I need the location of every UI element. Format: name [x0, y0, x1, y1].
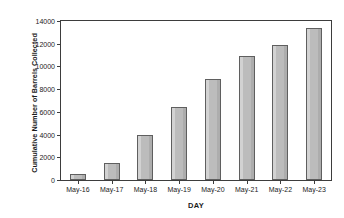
x-axis-tick-label: May-16	[66, 186, 89, 193]
x-axis-tick-mark	[213, 180, 214, 184]
bar-slot	[264, 21, 298, 180]
x-axis-tick-label: May-18	[134, 186, 157, 193]
x-axis-tick-label: May-19	[167, 186, 190, 193]
x-axis-tick-mark	[145, 180, 146, 184]
bar-slot	[297, 21, 331, 180]
bar	[205, 79, 221, 180]
plot-area: 02000400060008000100001200014000 May-16M…	[60, 20, 332, 181]
y-axis-tick-label: 0	[51, 177, 55, 184]
bar-slot	[162, 21, 196, 180]
x-axis-tick-label: May-23	[302, 186, 325, 193]
y-axis-tick-label: 10000	[36, 63, 55, 70]
bar-slot	[196, 21, 230, 180]
y-axis-tick-label: 12000	[36, 40, 55, 47]
bar-slot	[129, 21, 163, 180]
x-axis-tick-label: May-17	[100, 186, 123, 193]
bar-slot	[61, 21, 95, 180]
x-axis-tick-mark	[179, 180, 180, 184]
bar-series	[61, 21, 331, 180]
bar-chart-figure: Cumulative Number of Barrels Collected 0…	[0, 0, 344, 218]
x-axis-tick-mark	[78, 180, 79, 184]
x-axis-tick-mark	[247, 180, 248, 184]
bar	[306, 28, 322, 180]
y-axis-tick-label: 6000	[39, 108, 55, 115]
x-axis-tick-label: May-21	[235, 186, 258, 193]
y-axis-tick-label: 4000	[39, 131, 55, 138]
bar-slot	[230, 21, 264, 180]
bar	[272, 45, 288, 180]
x-axis-tick-label: May-20	[201, 186, 224, 193]
x-axis-tick-label: May-22	[269, 186, 292, 193]
y-axis-tick-label: 8000	[39, 86, 55, 93]
y-axis-tick-label: 14000	[36, 18, 55, 25]
x-axis-title: DAY	[60, 201, 332, 210]
bar-slot	[95, 21, 129, 180]
bar	[137, 135, 153, 180]
y-axis-tick-label: 2000	[39, 154, 55, 161]
bar	[239, 56, 255, 180]
x-axis-tick-mark	[314, 180, 315, 184]
bar	[70, 174, 86, 180]
bar	[104, 163, 120, 180]
x-axis-tick-mark	[112, 180, 113, 184]
y-axis-tick-mark	[57, 180, 61, 181]
bar	[171, 107, 187, 180]
x-axis-tick-mark	[280, 180, 281, 184]
